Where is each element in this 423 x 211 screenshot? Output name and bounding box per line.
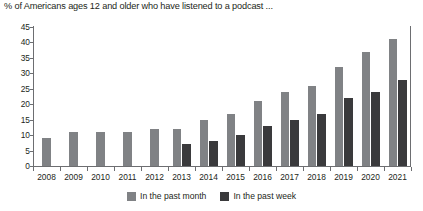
x-axis-tick-mark	[384, 167, 385, 171]
x-axis-tick-mark	[222, 167, 223, 171]
legend-label: In the past week	[233, 191, 296, 201]
bar-past-week	[398, 80, 407, 166]
bar-past-month	[362, 52, 371, 166]
x-axis-tick-mark	[276, 167, 277, 171]
x-axis-tick-label: 2015	[226, 172, 245, 182]
x-axis-tick-mark	[168, 167, 169, 171]
chart-title: % of Americans ages 12 and older who hav…	[4, 1, 273, 11]
x-axis-tick-label: 2009	[64, 172, 83, 182]
bar-past-week	[371, 92, 380, 166]
x-axis-tick-mark	[60, 167, 61, 171]
legend-item: In the past month	[127, 191, 206, 201]
x-axis-tick-mark	[330, 167, 331, 171]
x-axis-tick-mark	[87, 167, 88, 171]
bar-past-week	[263, 126, 272, 166]
x-axis-tick-mark	[33, 167, 34, 171]
x-axis-tick-mark	[249, 167, 250, 171]
bar-past-month	[227, 114, 236, 167]
x-axis-tick-label: 2021	[388, 172, 407, 182]
x-axis-tick-mark	[114, 167, 115, 171]
y-axis-tick-label: 40	[4, 37, 30, 47]
x-axis-tick-label: 2013	[172, 172, 191, 182]
bar-past-month	[150, 129, 159, 166]
x-axis-tick-label: 2010	[91, 172, 110, 182]
bar-past-month	[42, 138, 51, 166]
legend-label: In the past month	[140, 191, 206, 201]
x-axis-tick-label: 2008	[37, 172, 56, 182]
y-axis-tick-label: 35	[4, 53, 30, 63]
chart-legend: In the past monthIn the past week	[0, 191, 423, 201]
x-axis-tick-label: 2020	[361, 172, 380, 182]
x-axis-tick-mark	[141, 167, 142, 171]
bar-past-week	[236, 135, 245, 166]
x-axis-tick-mark	[411, 167, 412, 171]
x-axis-tick-label: 2017	[280, 172, 299, 182]
y-axis-tick-label: 10	[4, 130, 30, 140]
x-axis-tick-label: 2011	[118, 172, 136, 182]
y-axis-tick-label: 0	[4, 161, 30, 171]
x-axis-tick-label: 2018	[307, 172, 326, 182]
bar-past-month	[335, 67, 344, 166]
y-axis-tick-label: 20	[4, 99, 30, 109]
x-axis-tick-mark	[195, 167, 196, 171]
x-axis-tick-mark	[357, 167, 358, 171]
bar-past-week	[290, 120, 299, 166]
x-axis-tick-label: 2019	[334, 172, 353, 182]
bar-past-month	[200, 120, 209, 166]
y-axis-tick-label: 5	[4, 146, 30, 156]
y-axis-tick-label: 15	[4, 115, 30, 125]
legend-item: In the past week	[220, 191, 296, 201]
bar-past-month	[281, 92, 290, 166]
bar-past-week	[317, 114, 326, 167]
bar-past-month	[389, 39, 398, 166]
bar-past-month	[308, 86, 317, 166]
y-axis: 051015202530354045	[0, 0, 30, 211]
bar-past-month	[123, 132, 132, 166]
y-axis-tick-label: 45	[4, 22, 30, 32]
y-axis-tick-label: 30	[4, 68, 30, 78]
bar-past-month	[96, 132, 105, 166]
podcast-listening-bar-chart: % of Americans ages 12 and older who hav…	[0, 0, 423, 211]
bar-past-month	[69, 132, 78, 166]
x-axis-tick-label: 2012	[145, 172, 164, 182]
bar-past-month	[173, 129, 182, 166]
plot-area	[33, 27, 411, 166]
x-axis-tick-label: 2016	[253, 172, 272, 182]
legend-swatch	[220, 192, 229, 201]
y-axis-tick-label: 25	[4, 84, 30, 94]
legend-swatch	[127, 192, 136, 201]
bar-past-week	[182, 144, 191, 166]
x-axis-tick-mark	[303, 167, 304, 171]
bar-past-week	[209, 141, 218, 166]
x-axis-tick-label: 2014	[199, 172, 218, 182]
bar-past-month	[254, 101, 263, 166]
bar-past-week	[344, 98, 353, 166]
